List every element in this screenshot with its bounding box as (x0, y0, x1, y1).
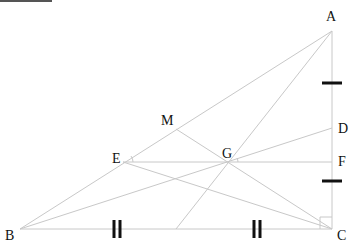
segment-cm (176, 129, 332, 229)
label-a: A (326, 10, 336, 24)
label-c: C (337, 229, 346, 243)
label-g: G (222, 147, 232, 161)
label-f: F (338, 155, 346, 169)
label-b: B (5, 229, 14, 243)
median-a-to-bc (176, 31, 332, 229)
geometry-diagram (0, 0, 350, 243)
label-m: M (161, 114, 173, 128)
label-d: D (338, 122, 348, 136)
label-e: E (112, 152, 121, 166)
segment-ce (123, 162, 332, 229)
